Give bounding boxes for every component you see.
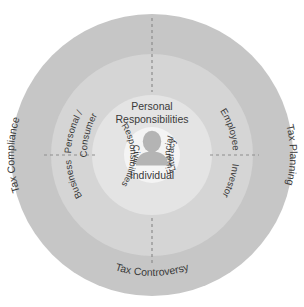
label-individual: Individual	[130, 169, 174, 181]
label-personal-responsibilities-line1: Personal	[131, 100, 172, 112]
ring-diagram: Tax Compliance Tax Planning Tax Controve…	[0, 0, 304, 307]
ring-diagram-canvas: Tax Compliance Tax Planning Tax Controve…	[0, 0, 304, 307]
